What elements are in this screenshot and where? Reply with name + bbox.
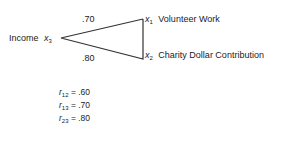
edge-label-x3-x2: .80 bbox=[82, 53, 95, 63]
node-volunteer-label: Volunteer Work bbox=[158, 14, 219, 24]
correlation-r23: r23 = .80 bbox=[59, 113, 90, 126]
node-volunteer-work: x1 Volunteer Work bbox=[145, 14, 220, 27]
node-volunteer-var: x1 bbox=[145, 14, 153, 24]
node-charity-contribution: x2 Charity Dollar Contribution bbox=[145, 50, 264, 63]
node-charity-label: Charity Dollar Contribution bbox=[158, 50, 264, 60]
correlation-r13: r13 = .70 bbox=[59, 100, 90, 113]
correlation-triangle bbox=[0, 0, 283, 144]
node-income-var: x3 bbox=[44, 33, 52, 43]
correlation-r12: r12 = .60 bbox=[59, 87, 90, 100]
triangle-edges bbox=[61, 19, 143, 59]
node-income-label: Income bbox=[9, 33, 39, 43]
edge-label-x3-x1: .70 bbox=[82, 14, 95, 24]
node-charity-var: x2 bbox=[145, 50, 153, 60]
node-income: Income x3 bbox=[9, 33, 52, 46]
